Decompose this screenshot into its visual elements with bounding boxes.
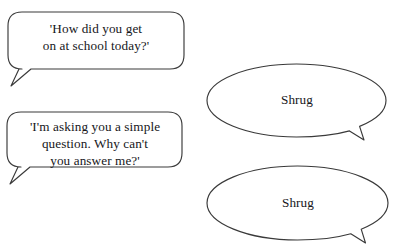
illustration-canvas: 'How did you get on at school today?' 'I… [0, 0, 393, 245]
response-bubble-2-text: Shrug [207, 194, 389, 211]
question-bubble-1-text: 'How did you get on at school today?' [12, 20, 180, 54]
response-bubble-1-text: Shrug [207, 91, 387, 108]
question-bubble-2-text: 'I'm asking you a simple question. Why c… [10, 118, 180, 169]
